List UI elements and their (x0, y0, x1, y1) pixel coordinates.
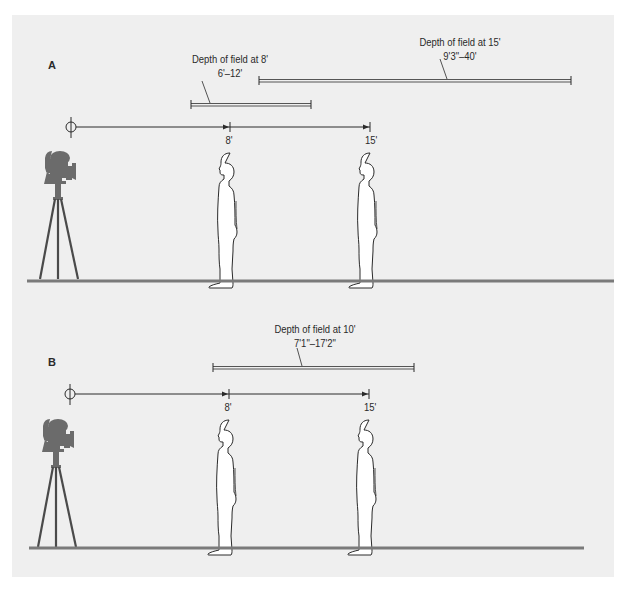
distance-label-8ft: 8' (225, 401, 232, 413)
camera-tripod-icon (38, 419, 76, 547)
dof-8ft-range: 6'–12' (178, 67, 281, 80)
camera-focal-point-icon (65, 384, 75, 405)
camera-focal-point-icon (66, 117, 76, 138)
dof-15ft-range: 9'3"–40' (404, 50, 516, 63)
dof-8ft-title: Depth of field at 8' (178, 53, 281, 66)
dof-bar-10ft (213, 348, 414, 372)
distance-label-15ft: 15' (364, 401, 376, 413)
depth-of-field-diagram (0, 0, 627, 590)
person-at-15ft-icon (348, 420, 376, 555)
panel-a (27, 59, 614, 288)
distance-label-8ft: 8' (226, 134, 233, 146)
person-at-15ft-icon (349, 153, 377, 288)
dof-10ft-range: 7'1"–17'2" (259, 337, 371, 350)
distance-label-15ft: 15' (365, 134, 377, 146)
person-at-8ft-icon (208, 420, 236, 555)
camera-tripod-icon (40, 151, 78, 279)
dof-bar-8ft (191, 81, 311, 109)
person-at-8ft-icon (209, 153, 237, 288)
dof-10ft-title: Depth of field at 10' (259, 323, 371, 336)
panel-b-label: B (48, 356, 56, 368)
panel-b (29, 348, 584, 555)
panel-a-label: A (48, 59, 56, 71)
dof-15ft-title: Depth of field at 15' (404, 36, 516, 49)
